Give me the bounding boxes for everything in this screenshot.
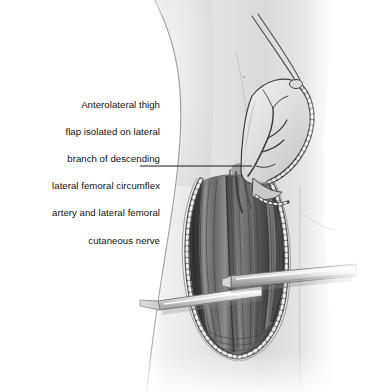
left-edge-fade bbox=[110, 0, 166, 392]
anterolateral-thigh-flap-illustration bbox=[0, 0, 368, 392]
bottom-edge-fade bbox=[0, 352, 368, 392]
right-edge-fade bbox=[300, 0, 368, 392]
figure-root: Anterolateral thigh flap isolated on lat… bbox=[0, 0, 368, 392]
skin-mark bbox=[243, 76, 246, 78]
